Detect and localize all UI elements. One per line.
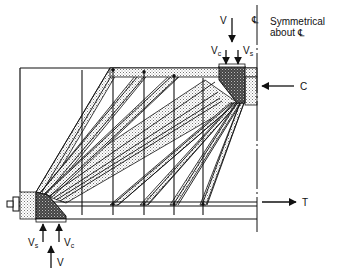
top-load-label: V <box>220 15 227 26</box>
symmetry-note-line2: about ℄ <box>270 27 304 38</box>
bottom-vc-sub: c <box>71 242 75 249</box>
bottom-vc-text: V <box>64 237 71 248</box>
top-vc-label: Vc <box>211 45 221 59</box>
compression-label: C <box>300 81 307 92</box>
top-vs-label: Vs <box>243 45 253 59</box>
anchor-plate <box>7 197 19 211</box>
top-vc-sub: c <box>218 50 222 57</box>
bottom-vs-label: Vs <box>28 237 38 251</box>
top-vc-text: V <box>211 45 218 56</box>
top-vs-text: V <box>243 45 250 56</box>
bottom-reaction-label: V <box>57 257 64 268</box>
compression-fan-fields <box>36 68 244 205</box>
bottom-vs-text: V <box>28 237 35 248</box>
symmetry-note-line1: Symmetrical <box>270 16 325 27</box>
strut-and-tie-diagram <box>0 0 338 277</box>
bottom-vc-label: Vc <box>64 237 74 251</box>
centerline-symbol: ℄ <box>252 14 258 25</box>
top-vs-sub: s <box>250 50 254 57</box>
tension-label: T <box>302 197 308 208</box>
bottom-vs-sub: s <box>35 242 39 249</box>
